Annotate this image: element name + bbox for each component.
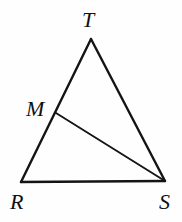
vertex-label-T: T: [82, 7, 96, 32]
segment-RS: [21, 181, 165, 182]
segment-MS: [56, 113, 165, 181]
vertex-label-R: R: [9, 189, 24, 214]
vertex-label-S: S: [159, 189, 170, 214]
geometry-figure: T M R S: [0, 0, 182, 222]
segment-TS: [91, 39, 165, 181]
vertex-label-M: M: [25, 96, 46, 121]
triangle-diagram-svg: T M R S: [0, 0, 182, 222]
